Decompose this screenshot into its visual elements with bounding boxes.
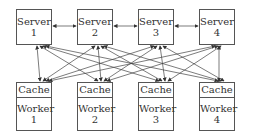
cache-label: Cache — [78, 83, 112, 98]
worker-number: 3 — [139, 114, 173, 125]
server-3-box: Server 3 — [138, 9, 174, 45]
server-label: Server — [200, 16, 234, 27]
cache-label: Cache — [17, 83, 51, 98]
cache-label: Cache — [139, 83, 173, 98]
worker-3-box: Cache Worker 3 — [138, 82, 174, 131]
worker-1-box: Cache Worker 1 — [16, 82, 52, 131]
server-number: 4 — [200, 27, 234, 38]
worker-number: 2 — [78, 114, 112, 125]
server-1-box: Server 1 — [16, 9, 52, 45]
worker-label: Worker — [78, 103, 112, 114]
worker-4-box: Cache Worker 4 — [199, 82, 235, 131]
server-label: Server — [139, 16, 173, 27]
server-2-box: Server 2 — [77, 9, 113, 45]
worker-number: 4 — [200, 114, 234, 125]
worker-2-box: Cache Worker 2 — [77, 82, 113, 131]
worker-label: Worker — [139, 103, 173, 114]
server-number: 1 — [17, 27, 51, 38]
cache-label: Cache — [200, 83, 234, 98]
worker-label: Worker — [200, 103, 234, 114]
worker-number: 1 — [17, 114, 51, 125]
worker-label: Worker — [17, 103, 51, 114]
server-number: 3 — [139, 27, 173, 38]
server-4-box: Server 4 — [199, 9, 235, 45]
server-number: 2 — [78, 27, 112, 38]
server-label: Server — [78, 16, 112, 27]
server-label: Server — [17, 16, 51, 27]
